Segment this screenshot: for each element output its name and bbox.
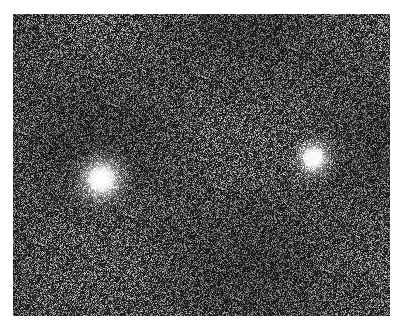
star-field-noise [13,14,390,316]
astronomical-photo [13,14,390,316]
